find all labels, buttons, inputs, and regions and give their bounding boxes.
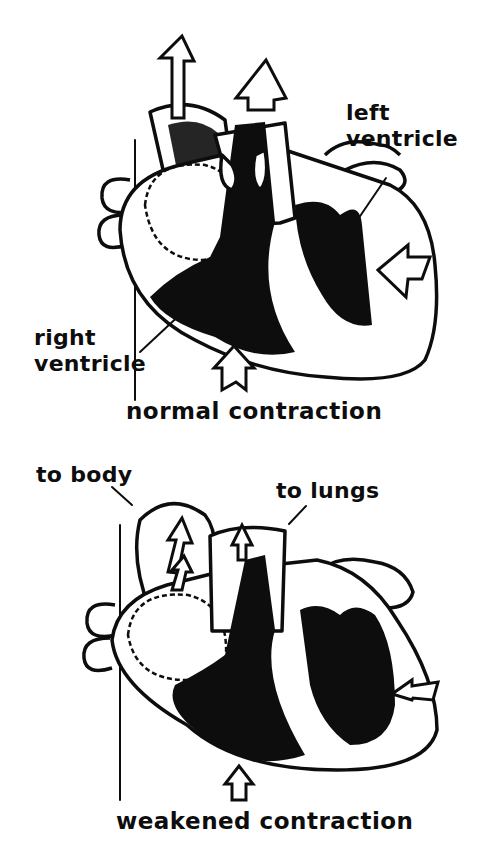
- label-to-lungs: to lungs: [276, 478, 379, 504]
- aorta: [137, 504, 215, 610]
- pulmonary-trunk: [210, 527, 285, 631]
- label-left-ventricle: left ventricle: [346, 100, 458, 152]
- label-right-ventricle: right ventricle: [34, 325, 146, 377]
- caption-normal-contraction: normal contraction: [126, 398, 382, 424]
- caption-weakened-contraction: weakened contraction: [116, 808, 413, 834]
- blood-flow-arrow-icon: [232, 525, 252, 560]
- label-to-body: to body: [36, 462, 132, 488]
- blood-flow-arrow-icon: [168, 518, 192, 573]
- label-line: right: [34, 325, 146, 351]
- atrium-lobe: [84, 638, 112, 670]
- blood-flow-arrow-icon: [172, 556, 192, 590]
- label-line: left: [346, 100, 458, 126]
- squeeze-arrow-icon: [225, 766, 253, 800]
- right-atrium-outline: [128, 595, 226, 681]
- atrium-lobe: [87, 604, 117, 636]
- to-body-leader: [112, 487, 132, 505]
- label-line: ventricle: [34, 351, 146, 377]
- valve-flap: [253, 150, 266, 190]
- right-ventricle-blood: [173, 555, 306, 761]
- squeeze-arrow-icon: [392, 680, 438, 700]
- label-line: ventricle: [346, 126, 458, 152]
- atrium-lobe: [320, 559, 413, 608]
- to-lungs-leader: [289, 506, 306, 524]
- blood-flow-arrow-icon: [236, 60, 286, 110]
- heart-outline: [112, 560, 437, 770]
- left-ventricle-blood: [300, 606, 395, 745]
